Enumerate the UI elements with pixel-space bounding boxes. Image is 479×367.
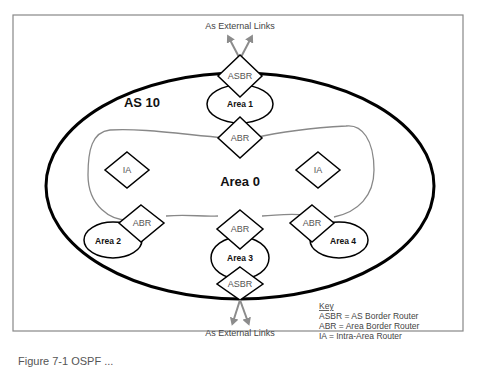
router-asbr-top-label: ASBR [228,71,253,81]
area3-label: Area 3 [227,253,253,263]
key-title: Key [319,301,334,311]
external-links-bottom-label: As External Links [205,328,275,338]
router-asbr-bottom-label: ASBR [228,279,253,289]
router-ia-left-label: IA [123,165,132,175]
external-links-top-label: As External Links [205,21,275,31]
area1-label: Area 1 [227,99,253,109]
area4-label: Area 4 [330,236,356,246]
figure-caption: Figure 7-1 OSPF ... [18,355,113,367]
key-item-abr: ABR = Area Border Router [319,321,420,331]
router-abr-area2-label: ABR [133,218,152,228]
key-item-asbr: ASBR = AS Border Router [319,311,419,321]
as-label: AS 10 [124,95,160,110]
area2-label: Area 2 [95,236,121,246]
area0-label: Area 0 [220,174,260,189]
router-abr-area4-label: ABR [303,218,322,228]
key-item-ia: IA = Intra-Area Router [319,331,402,341]
router-abr-area1-label: ABR [231,133,250,143]
router-ia-right-label: IA [314,165,323,175]
router-abr-area3-label: ABR [231,224,250,234]
